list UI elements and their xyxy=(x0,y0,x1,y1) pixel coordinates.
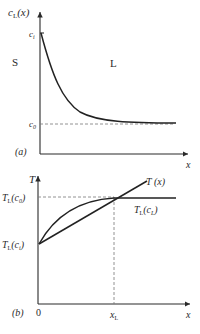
level-tl-ci: TL(ci) xyxy=(2,239,25,251)
panel-a-tag: (a) xyxy=(15,146,27,158)
y-axis-label-b: T xyxy=(29,173,36,185)
x-tick-xl: xL xyxy=(109,309,118,321)
panel-a: cL(x) ci c0 S L (a) x xyxy=(8,6,191,170)
line-label-tx: T (x) xyxy=(146,176,166,188)
origin-label: 0 xyxy=(36,307,41,318)
region-liquid-label: L xyxy=(110,57,117,69)
panel-b: T TL(c0) TL(ci) T (x) TL(cL) (b) 0 xL x xyxy=(2,173,191,321)
concentration-curve xyxy=(41,33,176,123)
region-solid-label: S xyxy=(12,56,18,68)
temperature-line xyxy=(39,181,147,244)
curve-label-tl-cl: TL(cL) xyxy=(134,204,158,216)
x-axis-label-b: x xyxy=(185,309,191,320)
x-axis-label-a: x xyxy=(185,159,191,170)
level-tl-c0: TL(c0) xyxy=(2,192,26,204)
tick-ci: ci xyxy=(29,29,35,40)
tick-c0: c0 xyxy=(29,119,36,130)
y-axis-label-a: cL(x) xyxy=(8,6,30,20)
panel-b-tag: (b) xyxy=(12,307,24,319)
constitutional-supercooling-diagram: cL(x) ci c0 S L (a) x T TL(c0) TL(ci) T … xyxy=(0,0,200,334)
